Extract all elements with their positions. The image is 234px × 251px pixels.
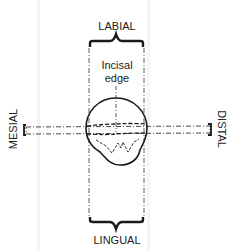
label-incisal: Incisal [101,59,132,71]
incisal-band-outline [26,126,210,134]
label-lingual: LINGUAL [93,234,140,246]
label-mesial: MESIAL [7,109,19,149]
incisal-edge-upper [87,124,146,127]
label-labial: LABIAL [98,20,135,32]
label-edge: edge [105,72,129,84]
brace-lingual [90,217,143,229]
label-distal: DISTAL [216,110,228,148]
bracket-left [24,125,26,135]
tooth-outline [86,98,147,165]
brace-labial [90,34,143,47]
lingual-ridge-zigzag [96,139,139,153]
tooth-cross-section-diagram: LABIAL Incisal edge LINGUAL MESIAL DISTA… [0,0,234,251]
